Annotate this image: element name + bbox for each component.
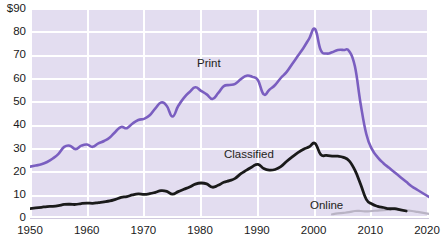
y-axis-tick-70: 70 bbox=[0, 49, 26, 59]
x-axis-tick-1970: 1970 bbox=[121, 224, 165, 236]
y-axis-tick-90: $90 bbox=[0, 3, 26, 13]
x-axis-tick-2020: 2020 bbox=[405, 224, 445, 236]
series-lines bbox=[30, 8, 429, 218]
y-axis-tick-20: 20 bbox=[0, 166, 26, 176]
y-axis-tick-80: 80 bbox=[0, 26, 26, 36]
online-line bbox=[332, 210, 429, 215]
x-axis-tick-2010: 2010 bbox=[348, 224, 392, 236]
y-axis-tick-10: 10 bbox=[0, 189, 26, 199]
x-axis-tick-2000: 2000 bbox=[292, 224, 336, 236]
y-axis-tick-30: 30 bbox=[0, 143, 26, 153]
y-axis-tick-60: 60 bbox=[0, 73, 26, 83]
y-axis-tick-40: 40 bbox=[0, 119, 26, 129]
x-axis-tick-1960: 1960 bbox=[65, 224, 109, 236]
print-line bbox=[30, 28, 429, 197]
x-axis-tick-1980: 1980 bbox=[178, 224, 222, 236]
plot-area: Print Classified Online bbox=[30, 8, 429, 218]
y-axis-tick-0: 0 bbox=[0, 212, 26, 222]
online-series-label: Online bbox=[310, 199, 343, 211]
x-axis-tick-1950: 1950 bbox=[8, 224, 52, 236]
x-axis-line bbox=[30, 218, 429, 219]
x-axis-tick-1990: 1990 bbox=[235, 224, 279, 236]
y-axis-tick-50: 50 bbox=[0, 96, 26, 106]
classified-line bbox=[30, 143, 406, 211]
classified-series-label: Classified bbox=[224, 148, 274, 160]
print-series-label: Print bbox=[197, 57, 221, 69]
